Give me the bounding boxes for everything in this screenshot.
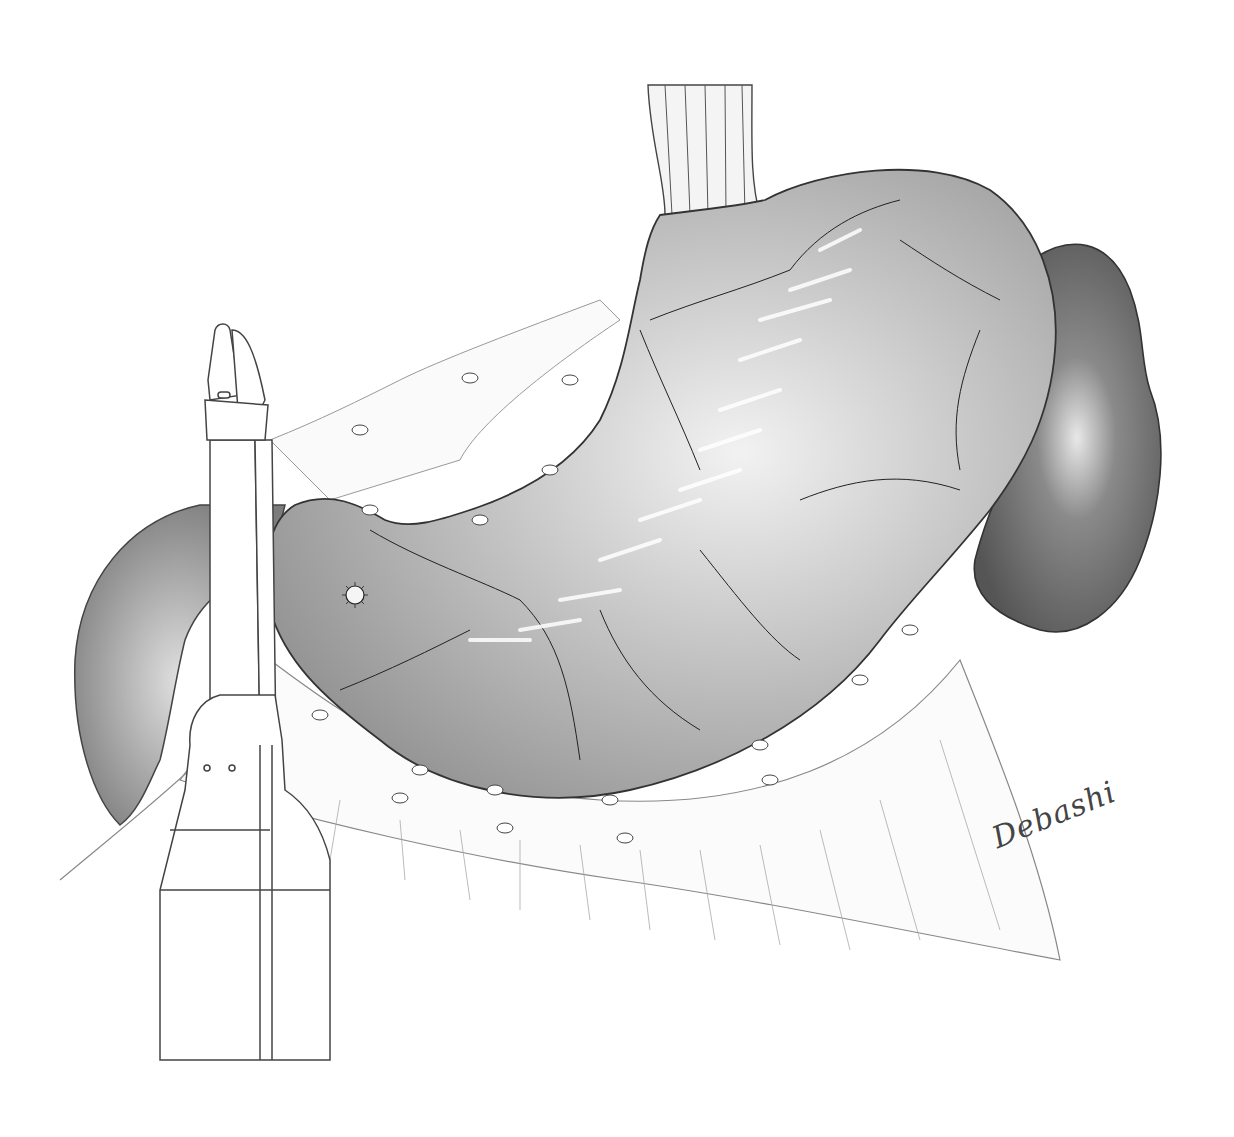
medical-illustration <box>0 0 1234 1137</box>
esophagus <box>648 85 760 215</box>
